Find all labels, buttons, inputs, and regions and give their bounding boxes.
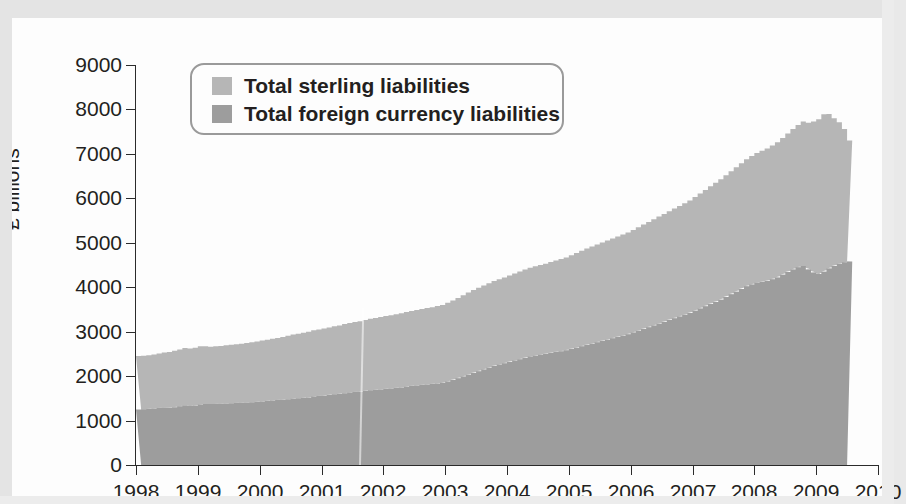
y-tick-label: 4000 <box>54 276 122 297</box>
x-tick-mark <box>816 466 817 475</box>
legend-swatch-foreign <box>212 105 232 123</box>
page-bottom-margin <box>0 496 894 504</box>
chart-card: £ billions 90008000700060005000400030002… <box>12 18 882 496</box>
y-tick-mark <box>126 421 135 422</box>
x-tick-mark <box>445 466 446 475</box>
x-tick-mark <box>754 466 755 475</box>
y-tick-mark <box>126 376 135 377</box>
y-tick-label: 1000 <box>54 410 122 431</box>
y-tick-label: 5000 <box>54 232 122 253</box>
y-tick-mark <box>126 154 135 155</box>
x-tick-mark <box>322 466 323 475</box>
y-tick-mark <box>126 465 135 466</box>
y-tick-label: 0 <box>54 454 122 475</box>
legend-swatch-sterling <box>212 77 232 95</box>
x-tick-mark <box>693 466 694 475</box>
x-tick-mark <box>507 466 508 475</box>
x-tick-mark <box>260 466 261 475</box>
page-top-margin <box>0 0 894 18</box>
y-tick-mark <box>126 332 135 333</box>
y-tick-mark <box>126 198 135 199</box>
x-tick-mark <box>136 466 137 475</box>
x-tick-mark <box>383 466 384 475</box>
x-tick-mark <box>631 466 632 475</box>
legend-item-foreign: Total foreign currency liabilities <box>212 100 560 128</box>
legend-item-sterling: Total sterling liabilities <box>212 72 470 100</box>
y-tick-mark <box>126 243 135 244</box>
page-left-margin <box>0 0 12 504</box>
y-tick-mark <box>126 287 135 288</box>
y-tick-mark <box>126 65 135 66</box>
legend-label-sterling: Total sterling liabilities <box>244 74 470 98</box>
page-right-margin <box>882 0 894 504</box>
y-tick-label: 2000 <box>54 365 122 386</box>
y-tick-label: 3000 <box>54 321 122 342</box>
y-tick-label: 8000 <box>54 98 122 119</box>
y-tick-label: 6000 <box>54 187 122 208</box>
x-tick-mark <box>569 466 570 475</box>
x-tick-mark <box>198 466 199 475</box>
y-tick-label: 7000 <box>54 143 122 164</box>
legend-label-foreign: Total foreign currency liabilities <box>244 102 560 126</box>
y-tick-label: 9000 <box>54 54 122 75</box>
chart-legend: Total sterling liabilities Total foreign… <box>190 63 564 135</box>
x-tick-mark <box>878 466 879 475</box>
y-tick-mark <box>126 109 135 110</box>
